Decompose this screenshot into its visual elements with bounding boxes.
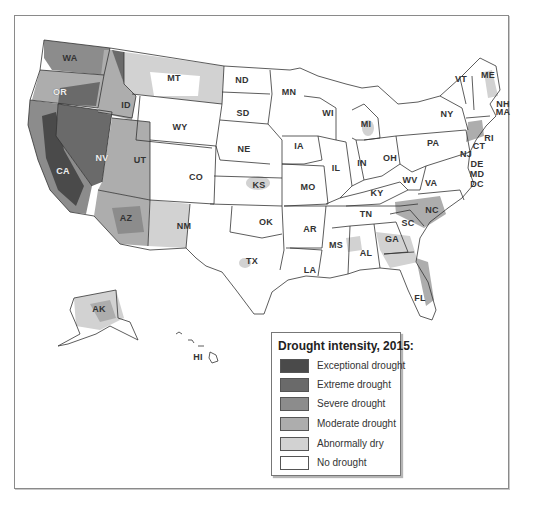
legend-item-abnormally-dry: Abnormally dry — [280, 437, 400, 453]
state-label-wi: WI — [322, 108, 333, 118]
state-label-wa: WA — [63, 53, 78, 63]
legend-item-exceptional: Exceptional drought — [280, 359, 400, 375]
state-label-ne: NE — [238, 144, 251, 154]
state-label-ok: OK — [259, 217, 273, 227]
state-label-ma: MA — [496, 107, 510, 117]
legend: Drought intensity, 2015: Exceptional dro… — [271, 332, 401, 476]
swatch-no-drought — [280, 456, 309, 470]
state-label-or: OR — [53, 87, 67, 97]
legend-item-extreme: Extreme drought — [280, 378, 400, 394]
state-label-wv: WV — [403, 175, 418, 185]
swatch-moderate — [280, 417, 309, 431]
state-label-fl: FL — [414, 293, 425, 303]
state-label-mi: MI — [361, 119, 371, 129]
state-label-md: MD — [470, 169, 484, 179]
state-label-ut: UT — [134, 155, 146, 165]
legend-label: Severe drought — [317, 398, 385, 409]
state-label-tn: TN — [360, 209, 372, 219]
swatch-extreme — [280, 378, 309, 392]
swatch-exceptional — [280, 359, 309, 373]
state-label-ga: GA — [385, 234, 399, 244]
state-label-oh: OH — [383, 153, 397, 163]
state-label-sc: SC — [402, 218, 415, 228]
state-label-dc: DC — [470, 179, 483, 189]
state-label-nj: NJ — [460, 149, 472, 159]
state-label-az: AZ — [120, 213, 132, 223]
state-label-la: LA — [304, 265, 316, 275]
swatch-severe — [280, 397, 309, 411]
state-label-tx: TX — [246, 256, 258, 266]
state-label-co: CO — [189, 172, 203, 182]
state-label-ms: MS — [329, 240, 343, 250]
state-label-wy: WY — [173, 122, 188, 132]
legend-item-no-drought: No drought — [280, 456, 400, 472]
state-label-nv: NV — [96, 153, 109, 163]
state-label-id: ID — [121, 100, 130, 110]
state-label-ak: AK — [92, 304, 105, 314]
state-label-ar: AR — [303, 224, 316, 234]
legend-label: Moderate drought — [317, 418, 396, 429]
legend-label: No drought — [317, 457, 366, 468]
state-label-ri: RI — [484, 133, 493, 143]
swatch-abnormally-dry — [280, 437, 309, 451]
state-label-ky: KY — [371, 188, 384, 198]
state-label-ia: IA — [294, 141, 303, 151]
state-label-me: ME — [481, 70, 495, 80]
legend-label: Abnormally dry — [317, 438, 384, 449]
legend-item-moderate: Moderate drought — [280, 417, 400, 433]
legend-item-severe: Severe drought — [280, 397, 400, 413]
state-label-mt: MT — [167, 73, 180, 83]
state-label-va: VA — [425, 178, 437, 188]
state-label-nm: NM — [177, 221, 191, 231]
state-label-sd: SD — [237, 108, 250, 118]
legend-title: Drought intensity, 2015: — [278, 339, 414, 353]
state-label-ny: NY — [441, 109, 454, 119]
state-label-vt: VT — [455, 74, 467, 84]
legend-label: Exceptional drought — [317, 360, 405, 371]
state-label-de: DE — [471, 159, 484, 169]
state-label-mn: MN — [282, 87, 296, 97]
legend-label: Extreme drought — [317, 379, 391, 390]
state-label-al: AL — [360, 248, 372, 258]
state-label-ca: CA — [56, 166, 69, 176]
state-label-ct: CT — [473, 141, 485, 151]
state-label-in: IN — [357, 158, 366, 168]
state-label-mo: MO — [301, 182, 316, 192]
state-label-hi: HI — [193, 352, 202, 362]
state-label-ks: KS — [253, 180, 266, 190]
state-label-pa: PA — [427, 138, 439, 148]
state-label-nd: ND — [235, 75, 248, 85]
state-label-il: IL — [332, 163, 340, 173]
state-label-nc: NC — [425, 205, 438, 215]
